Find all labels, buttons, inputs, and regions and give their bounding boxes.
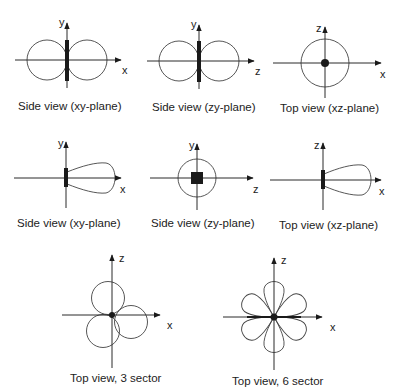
x-axis-label: x	[330, 321, 336, 333]
x-axis-label: x	[380, 68, 386, 80]
caption-panel-3: Top view (xz-plane)	[280, 103, 379, 115]
caption-panel-8: Top view, 6 sector	[232, 376, 323, 387]
z-axis-label: z	[255, 65, 261, 77]
antenna-element	[191, 172, 203, 184]
antenna-element	[271, 314, 278, 321]
panel-side-view-zy-2: y z	[150, 139, 259, 210]
z-axis-label: z	[314, 139, 320, 151]
antenna-element	[197, 41, 201, 82]
panel-side-view-xy-2: y x	[14, 137, 126, 208]
antenna-element	[321, 170, 325, 189]
caption-panel-1: Side view (xy-plane)	[18, 101, 122, 113]
caption-panel-4: Side view (xy-plane)	[17, 218, 121, 230]
y-axis-label: y	[191, 18, 197, 30]
z-axis-label: z	[316, 22, 322, 34]
z-axis-label: z	[281, 254, 287, 266]
x-axis-label: x	[120, 183, 126, 195]
antenna-element	[65, 40, 69, 81]
caption-panel-5: Side view (zy-plane)	[151, 218, 255, 230]
caption-panel-2: Side view (zy-plane)	[152, 102, 256, 114]
y-axis-label: y	[59, 16, 65, 28]
y-axis-label: y	[58, 137, 64, 149]
antenna-element	[64, 168, 68, 187]
panel-top-view-xz-1: z x	[273, 22, 386, 98]
y-axis-label: y	[189, 139, 195, 151]
sector-lobe-3	[87, 315, 120, 348]
z-axis-label: z	[253, 183, 259, 195]
panel-top-view-3-sector: z x	[62, 252, 173, 368]
x-axis-label: x	[167, 319, 173, 331]
x-axis-label: x	[379, 185, 385, 197]
z-axis-label: z	[119, 252, 125, 264]
panel-top-view-6-sector: z x	[223, 254, 336, 370]
radiation-pattern-diagram: y x y z z x y x y z	[0, 0, 404, 387]
panel-side-view-zy-1: y z	[147, 18, 261, 89]
antenna-element	[109, 312, 115, 318]
x-axis-label: x	[122, 64, 128, 76]
caption-panel-7: Top view, 3 sector	[70, 373, 161, 385]
antenna-element	[321, 59, 329, 67]
caption-panel-6: Top view (xz-plane)	[279, 220, 378, 232]
panel-side-view-xy-1: y x	[15, 16, 128, 88]
panel-top-view-xz-2: z x	[270, 139, 385, 210]
